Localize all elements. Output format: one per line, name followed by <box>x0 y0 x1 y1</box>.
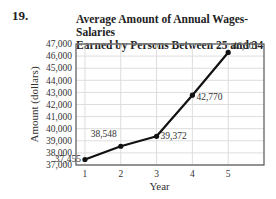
y-tick-label: 47,000 <box>46 39 72 49</box>
gridlines <box>76 44 264 165</box>
x-axis-label: Year <box>149 180 170 192</box>
x-tick-label: 5 <box>226 169 231 179</box>
data-point <box>154 134 159 139</box>
data-label: 39,372 <box>161 131 187 141</box>
y-tick-label: 39,000 <box>46 136 72 146</box>
x-tick-label: 3 <box>154 169 159 179</box>
x-tick-label: 2 <box>118 169 123 179</box>
y-tick-label: 44,000 <box>46 76 72 86</box>
y-tick-label: 45,000 <box>46 63 72 73</box>
y-tick-label: 40,000 <box>46 124 72 134</box>
data-point <box>190 93 195 98</box>
x-tick-label: 4 <box>190 169 195 179</box>
y-axis-label: Amount (dollars) <box>28 66 41 142</box>
y-tick-labels: 37,00038,00039,00040,00041,00042,00043,0… <box>46 39 72 170</box>
data-label: 42,770 <box>196 92 222 102</box>
data-label: 38,548 <box>91 129 117 139</box>
y-tick-label: 43,000 <box>46 88 72 98</box>
data-point <box>118 144 123 149</box>
y-tick-label: 42,000 <box>46 100 72 110</box>
data-label: 46,301 <box>232 41 258 51</box>
data-point <box>82 157 87 162</box>
y-tick-label: 41,000 <box>46 112 72 122</box>
line-chart: 37,00038,00039,00040,00041,00042,00043,0… <box>0 0 276 199</box>
x-tick-label: 1 <box>83 169 88 179</box>
data-point <box>226 50 231 55</box>
y-tick-label: 46,000 <box>46 51 72 61</box>
data-label: 37,455 <box>55 154 81 164</box>
x-tick-labels: 12345 <box>83 169 231 179</box>
